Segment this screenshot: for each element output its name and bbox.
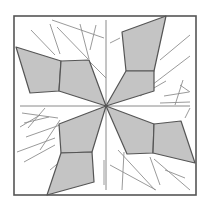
pinwheel-diagram bbox=[0, 0, 210, 209]
